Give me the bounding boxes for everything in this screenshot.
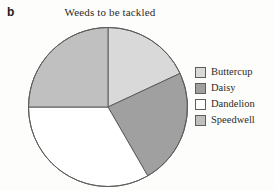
legend-swatch-daisy <box>195 83 206 94</box>
pie-slice-group <box>29 28 188 187</box>
legend-swatch-dandelion <box>195 99 206 110</box>
pie-chart-svg <box>26 25 190 189</box>
legend-item-speedwell[interactable]: Speedwell <box>195 112 275 128</box>
legend-label: Dandelion <box>211 98 255 110</box>
chart-title: Weeds to be tackled <box>30 5 190 19</box>
pie-chart <box>26 25 190 189</box>
figure-panel: b Weeds to be tackled ButtercupDaisyDand… <box>0 0 275 190</box>
legend: ButtercupDaisyDandelionSpeedwell <box>195 64 275 128</box>
legend-item-daisy[interactable]: Daisy <box>195 80 275 96</box>
legend-label: Buttercup <box>211 66 252 78</box>
legend-label: Daisy <box>211 82 236 94</box>
legend-item-buttercup[interactable]: Buttercup <box>195 64 275 80</box>
legend-swatch-speedwell <box>195 115 206 126</box>
legend-label: Speedwell <box>211 114 255 126</box>
panel-label: b <box>7 5 14 19</box>
legend-swatch-buttercup <box>195 67 206 78</box>
legend-item-dandelion[interactable]: Dandelion <box>195 96 275 112</box>
pie-slice-speedwell[interactable] <box>29 28 109 108</box>
